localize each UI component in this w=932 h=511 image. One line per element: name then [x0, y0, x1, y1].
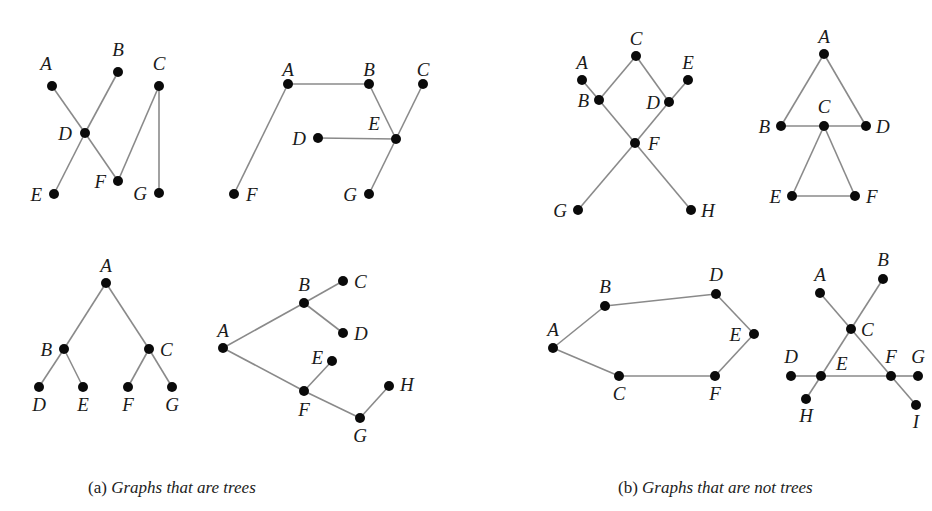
vertex-B — [364, 79, 374, 89]
vertex-label-F: F — [865, 186, 878, 207]
edge-A-F — [234, 84, 288, 194]
vertex-label-E: E — [76, 394, 89, 415]
caption-not-trees-prefix: (b) — [618, 478, 642, 497]
vertex-B — [600, 301, 610, 311]
edge-C-F — [824, 126, 855, 196]
vertex-label-B: B — [758, 116, 770, 137]
vertex-C — [154, 81, 164, 91]
vertex-G — [364, 189, 374, 199]
vertex-A — [815, 288, 825, 298]
vertex-label-C: C — [613, 383, 626, 404]
vertex-label-A: A — [38, 53, 52, 74]
vertex-label-C: C — [153, 53, 166, 74]
edge-F-G — [304, 391, 360, 418]
edge-B-C — [304, 281, 343, 303]
vertex-label-A: A — [574, 52, 588, 73]
edge-G-H — [360, 386, 389, 418]
edge-B-D — [85, 72, 118, 133]
vertex-E — [78, 382, 88, 392]
vertex-label-E: E — [768, 186, 781, 207]
vertex-label-C: C — [354, 271, 367, 292]
vertex-A — [218, 343, 228, 353]
vertex-B — [776, 121, 786, 131]
caption-not-trees: (b) Graphs that are not trees — [618, 478, 813, 498]
vertex-label-G: G — [165, 394, 179, 415]
vertex-A — [548, 343, 558, 353]
vertex-A — [47, 81, 57, 91]
vertex-label-B: B — [40, 339, 52, 360]
vertex-label-C: C — [818, 96, 831, 117]
vertex-label-A: A — [816, 26, 830, 47]
vertex-F — [123, 382, 133, 392]
vertex-label-B: B — [112, 39, 124, 60]
vertex-G — [573, 205, 583, 215]
edge-B-D — [605, 294, 716, 306]
edge-F-C — [118, 86, 159, 181]
vertex-C — [819, 121, 829, 131]
graph-tree-3: ABCDEFG — [31, 255, 179, 415]
graph-tree-1: ABCDEFG — [29, 39, 165, 205]
caption-trees: (a) Graphs that are trees — [88, 478, 256, 498]
vertex-B — [299, 298, 309, 308]
edge-F-G — [578, 143, 635, 210]
vertex-label-F: F — [297, 399, 310, 420]
vertex-label-B: B — [877, 249, 889, 270]
vertex-label-H: H — [399, 374, 415, 395]
vertex-label-C: C — [630, 28, 643, 49]
edge-B-C — [599, 56, 636, 100]
graph-nontree-4: ABCDEFGHI — [783, 249, 925, 432]
vertex-label-F: F — [93, 171, 106, 192]
edge-B-F — [599, 100, 635, 143]
vertex-label-D: D — [875, 116, 890, 137]
graph-tree-4: ABCDEFGH — [215, 271, 415, 446]
vertex-label-F: F — [708, 383, 721, 404]
vertex-label-D: D — [645, 92, 660, 113]
vertex-G — [167, 382, 177, 392]
vertex-E — [327, 356, 337, 366]
vertex-label-A: A — [98, 255, 112, 276]
vertex-C — [846, 324, 856, 334]
vertex-label-E: E — [835, 353, 848, 374]
vertex-H — [801, 394, 811, 404]
edge-F-H — [635, 143, 691, 210]
edge-A-C — [820, 293, 851, 329]
vertex-label-E: E — [728, 324, 741, 345]
edge-C-E — [792, 126, 824, 196]
vertex-I — [911, 400, 921, 410]
edge-F-I — [891, 376, 916, 405]
edge-E-C — [396, 84, 423, 139]
vertex-label-G: G — [553, 200, 567, 221]
vertex-label-F: F — [245, 184, 258, 205]
vertex-label-H: H — [798, 405, 814, 426]
edge-A-B — [223, 303, 304, 348]
vertex-label-A: A — [545, 319, 559, 340]
vertex-label-F: F — [884, 346, 897, 367]
vertex-F — [229, 189, 239, 199]
edge-A-B — [553, 306, 605, 348]
graph-nontree-2: ABCDEF — [758, 26, 890, 207]
vertex-B — [59, 344, 69, 354]
vertex-label-D: D — [708, 264, 723, 285]
vertex-F — [710, 371, 720, 381]
vertex-B — [878, 274, 888, 284]
edge-E-G — [369, 139, 396, 194]
vertex-D — [664, 97, 674, 107]
vertex-label-G: G — [353, 425, 367, 446]
vertex-G — [913, 371, 923, 381]
graph-nontree-1: CAEBDFGH — [553, 28, 716, 221]
graph-tree-2: ABCDEFG — [229, 59, 430, 205]
vertex-F — [886, 371, 896, 381]
vertex-label-A: A — [280, 59, 294, 80]
vertex-label-B: B — [577, 90, 589, 111]
vertex-label-C: C — [160, 339, 173, 360]
vertex-H — [686, 205, 696, 215]
edge-C-A — [553, 348, 619, 376]
vertex-D — [711, 289, 721, 299]
vertex-F — [299, 386, 309, 396]
vertex-label-D: D — [353, 323, 368, 344]
vertex-label-B: B — [599, 276, 611, 297]
vertex-label-G: G — [343, 184, 357, 205]
vertex-label-F: F — [121, 394, 134, 415]
vertex-A — [577, 75, 587, 85]
vertex-label-E: E — [681, 52, 694, 73]
